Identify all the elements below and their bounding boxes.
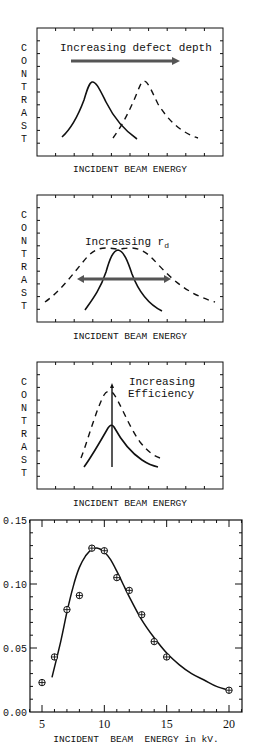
annotation-line-1: Increasing — [129, 376, 195, 388]
y-axis-letter: T — [21, 134, 27, 145]
circled-plus-marker — [226, 687, 232, 693]
circled-plus-marker — [64, 606, 70, 612]
y-axis-letter: T — [21, 468, 27, 479]
y-axis-letter: T — [21, 249, 27, 260]
y-axis-letter: S — [21, 455, 27, 466]
plot-frame — [37, 195, 223, 322]
y-axis-letter: C — [21, 210, 27, 221]
annotation-text: Increasing defect depth — [60, 42, 212, 54]
y-axis-letter: N — [21, 69, 27, 80]
circled-plus-marker — [151, 638, 157, 644]
circled-plus-marker — [163, 654, 169, 660]
y-axis-letter: T — [21, 416, 27, 427]
x-tick-label: 5 — [39, 717, 45, 731]
y-axis-letter: S — [21, 121, 27, 132]
y-axis-letter: A — [21, 442, 27, 453]
dashed-curve — [45, 248, 215, 302]
y-axis-label: CONTRAST — [21, 377, 27, 479]
y-axis-letter: A — [21, 275, 27, 286]
x-axis-label: INCIDENT BEAM ENERGY — [73, 498, 187, 509]
y-tick-labels: 0.000.050.100.15 — [3, 516, 27, 719]
panel-efficiency: CONTRAST Increasing Efficiency INCIDENT … — [21, 362, 223, 509]
y-axis-letter: N — [21, 236, 27, 247]
y-tick-label: 0.05 — [3, 644, 27, 655]
y-axis-letter: T — [21, 301, 27, 312]
x-tick-label: 15 — [161, 717, 173, 731]
x-axis-label: INCIDENT BEAM ENERGY — [73, 331, 187, 342]
double-arrow-icon — [77, 275, 171, 283]
y-axis-letter: A — [21, 108, 27, 119]
fit-curve — [52, 548, 229, 690]
ticks — [37, 195, 223, 322]
annotation-line-2: Efficiency — [128, 388, 194, 400]
y-tick-label: 0.15 — [3, 516, 27, 527]
solid-curve — [84, 425, 158, 467]
data-points — [39, 545, 232, 693]
panel-measured: 0.000.050.100.15 5101520 INCIDENT BEAM E… — [3, 516, 242, 745]
y-axis-label: CONTRAST — [21, 43, 27, 145]
x-axis-label: INCIDENT BEAM ENERGY — [73, 164, 187, 175]
x-axis-label: INCIDENT BEAM ENERGY in kV. — [53, 734, 218, 745]
y-axis-letter: C — [21, 377, 27, 388]
solid-curve — [62, 82, 137, 139]
y-tick-label: 0.00 — [3, 708, 27, 719]
panel-defect-depth: CONTRAST Increasing defect depth INCIDEN… — [21, 28, 223, 175]
dashed-curve — [81, 391, 160, 458]
y-axis-letter: T — [21, 82, 27, 93]
y-axis-letter: R — [21, 429, 27, 440]
arrow-right-icon — [71, 57, 180, 65]
circled-plus-marker — [101, 548, 107, 554]
y-axis-letter: O — [21, 223, 27, 234]
y-axis-letter: S — [21, 288, 27, 299]
circled-plus-marker — [114, 574, 120, 580]
panel-rd: CONTRAST Increasing rd INCIDENT BEAM ENE… — [21, 195, 223, 342]
circled-plus-marker — [89, 545, 95, 551]
circled-plus-marker — [39, 679, 45, 685]
y-axis-letter: R — [21, 95, 27, 106]
y-axis-label: CONTRAST — [21, 210, 27, 312]
y-axis-letter: R — [21, 262, 27, 273]
circled-plus-marker — [139, 612, 145, 618]
x-tick-label: 20 — [223, 717, 235, 731]
y-axis-letter: N — [21, 403, 27, 414]
y-tick-label: 0.10 — [3, 580, 27, 591]
circled-plus-marker — [126, 587, 132, 593]
circled-plus-marker — [76, 592, 82, 598]
y-axis-letter: C — [21, 43, 27, 54]
y-axis-letter: O — [21, 56, 27, 67]
x-tick-label: 10 — [98, 717, 110, 731]
x-tick-labels: 5101520 — [39, 717, 235, 731]
figure: CONTRAST Increasing defect depth INCIDEN… — [0, 0, 254, 745]
circled-plus-marker — [51, 654, 57, 660]
y-axis-letter: O — [21, 390, 27, 401]
